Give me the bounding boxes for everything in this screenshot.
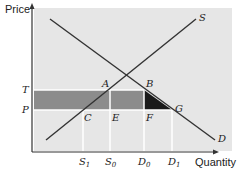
price-T-label: T — [22, 85, 29, 95]
tariff-band — [34, 90, 144, 110]
tick-S1-sub: 1 — [86, 161, 90, 169]
demand-label: D — [218, 134, 226, 144]
tick-D0: D0 — [138, 157, 151, 169]
tick-D1-base: D — [168, 156, 176, 167]
x-axis-label: Quantity — [195, 157, 236, 168]
tick-S0-base: S — [105, 156, 112, 167]
tariff-supply-demand-diagram: Price Quantity S D T P A B C E F G S1 S0… — [0, 0, 247, 173]
point-F-label: F — [146, 113, 153, 123]
point-E-label: E — [112, 113, 119, 123]
tick-S0-sub: 0 — [112, 161, 116, 169]
diagram-canvas — [0, 0, 247, 173]
price-P-label: P — [22, 105, 29, 115]
point-G-label: G — [175, 104, 183, 114]
point-A-label: A — [102, 79, 109, 89]
tick-D0-base: D — [138, 156, 146, 167]
tick-D0-sub: 0 — [146, 161, 150, 169]
point-C-label: C — [84, 113, 92, 123]
supply-label: S — [199, 13, 206, 23]
tick-D1-sub: 1 — [176, 161, 180, 169]
point-B-label: B — [146, 79, 153, 89]
tick-S0: S0 — [105, 157, 116, 169]
tick-S1-base: S — [79, 156, 86, 167]
y-axis-arrow-icon — [30, 3, 35, 9]
tick-S1: S1 — [79, 157, 90, 169]
tick-D1: D1 — [168, 157, 181, 169]
y-axis-label: Price — [5, 4, 30, 15]
